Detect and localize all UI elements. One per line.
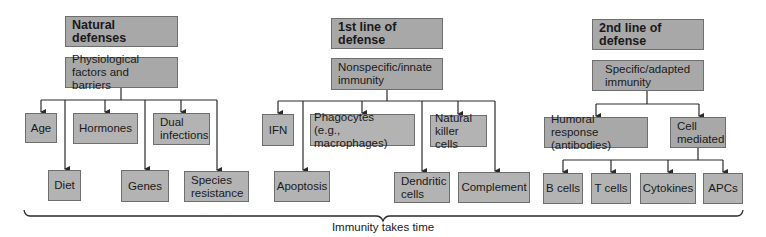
apoptosis-label: Apoptosis <box>277 180 328 193</box>
cytokines-box: Cytokines <box>640 173 696 204</box>
ifn-label: IFN <box>269 124 288 137</box>
nonspecific-immunity-box: Nonspecific/innate immunity <box>331 58 443 90</box>
natural-killer-cells-label: Natural killer cells <box>435 112 482 151</box>
physiological-factors-label: Physiological factors and barriers <box>72 53 171 92</box>
humoral-response-label: Humoral response (antibodies) <box>551 113 641 152</box>
dual-infections-box: Dual infections <box>153 113 210 145</box>
complement-box: Complement <box>458 172 530 203</box>
b-cells-label: B cells <box>546 182 580 195</box>
natural-killer-cells-box: Natural killer cells <box>430 115 487 147</box>
specific-immunity-box: Specific/adapted immunity <box>592 60 704 91</box>
nonspecific-immunity-label: Nonspecific/innate immunity <box>338 61 432 87</box>
cytokines-label: Cytokines <box>643 182 694 195</box>
apoptosis-box: Apoptosis <box>274 171 330 202</box>
dendritic-cells-label: Dendritic cells <box>401 175 446 201</box>
phagocytes-box: Phagocytes (e.g., macrophages) <box>310 114 415 146</box>
physiological-factors-box: Physiological factors and barriers <box>65 57 178 88</box>
natural-defenses-header: Natural defenses <box>65 16 178 47</box>
dual-infections-label: Dual infections <box>160 116 209 142</box>
diet-box: Diet <box>48 170 81 201</box>
natural-defenses-label: Natural defenses <box>72 19 171 45</box>
first-line-label: 1st line of defense <box>338 21 436 47</box>
age-label: Age <box>31 122 51 135</box>
diet-label: Diet <box>54 179 74 192</box>
ifn-box: IFN <box>262 114 294 146</box>
immunity-takes-time-caption: Immunity takes time <box>283 221 483 233</box>
genes-label: Genes <box>128 180 162 193</box>
t-cells-box: T cells <box>591 173 631 204</box>
age-box: Age <box>25 113 57 143</box>
first-line-header: 1st line of defense <box>331 18 443 49</box>
species-resistance-label: Species resistance <box>191 174 243 200</box>
complement-label: Complement <box>461 181 526 194</box>
apcs-label: APCs <box>708 182 737 195</box>
dendritic-cells-box: Dendritic cells <box>394 172 450 203</box>
humoral-response-box: Humoral response (antibodies) <box>544 117 648 148</box>
apcs-box: APCs <box>703 173 743 204</box>
cell-mediated-label: Cell mediated <box>677 120 724 146</box>
specific-immunity-label: Specific/adapted immunity <box>605 63 690 89</box>
hormones-label: Hormones <box>79 122 132 135</box>
genes-box: Genes <box>121 170 169 202</box>
second-line-label: 2nd line of defense <box>599 22 697 48</box>
second-line-header: 2nd line of defense <box>592 19 704 50</box>
phagocytes-label: Phagocytes (e.g., macrophages) <box>314 111 411 150</box>
cell-mediated-box: Cell mediated <box>670 117 726 148</box>
b-cells-box: B cells <box>543 173 583 204</box>
t-cells-label: T cells <box>594 182 627 195</box>
species-resistance-box: Species resistance <box>184 171 249 202</box>
hormones-box: Hormones <box>73 113 138 144</box>
